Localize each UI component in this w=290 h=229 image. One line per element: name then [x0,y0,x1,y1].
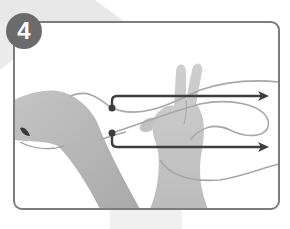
step-number: 4 [17,19,30,43]
instruction-illustration [0,0,290,229]
step-number-badge: 4 [6,13,42,49]
